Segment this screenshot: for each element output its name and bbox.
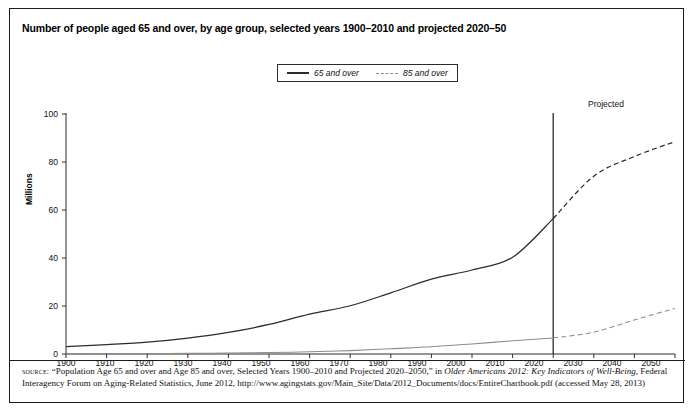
source-text-1: “Population Age 65 and over and Age 85 a… [49, 366, 444, 376]
chart-svg [10, 9, 685, 359]
source-citation: source: “Population Age 65 and over and … [22, 366, 672, 389]
chart-axes [62, 113, 675, 358]
source-italic-title: Older Americans 2012: Key Indicators of … [444, 366, 635, 376]
source-divider [10, 360, 685, 361]
series-65-over-projected [553, 142, 675, 219]
series-65-over-historical [66, 219, 553, 347]
plot-area: 65 and over 85 and over Millions 100 80 … [10, 9, 685, 359]
figure-container: Number of people aged 65 and over, by ag… [9, 8, 684, 403]
series-85-over-historical [66, 338, 553, 354]
series-85-over-projected [553, 308, 675, 338]
source-label: source: [22, 367, 49, 376]
